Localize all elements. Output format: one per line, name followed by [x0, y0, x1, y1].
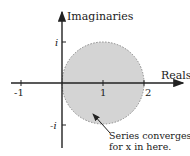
- complex-plane-diagram: Imaginaries Reals -1 1 2 i -i Series con…: [0, 0, 190, 156]
- y-tick-label-neg-i: -i: [50, 120, 57, 131]
- x-axis-label: Reals: [161, 69, 190, 82]
- x-tick-label-1: 1: [100, 87, 106, 98]
- y-axis-label: Imaginaries: [67, 10, 134, 23]
- annotation-line-2: for x in here.: [109, 141, 171, 152]
- y-tick-label-i: i: [55, 37, 58, 48]
- x-tick-label-neg1: -1: [14, 87, 24, 98]
- annotation-line-1: Series converges: [109, 130, 190, 141]
- x-tick-label-2: 2: [145, 87, 151, 98]
